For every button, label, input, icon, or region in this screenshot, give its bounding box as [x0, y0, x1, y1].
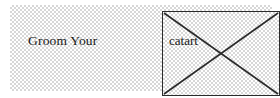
broken-image-cross-icon	[163, 12, 279, 95]
caption-text: Groom Your	[28, 33, 98, 49]
page-panel: Groom Your catart	[10, 5, 272, 91]
broken-image-alt-text: catart	[169, 33, 198, 48]
document-canvas: Groom Your catart	[0, 0, 280, 98]
broken-image-placeholder[interactable]: catart	[162, 11, 280, 96]
